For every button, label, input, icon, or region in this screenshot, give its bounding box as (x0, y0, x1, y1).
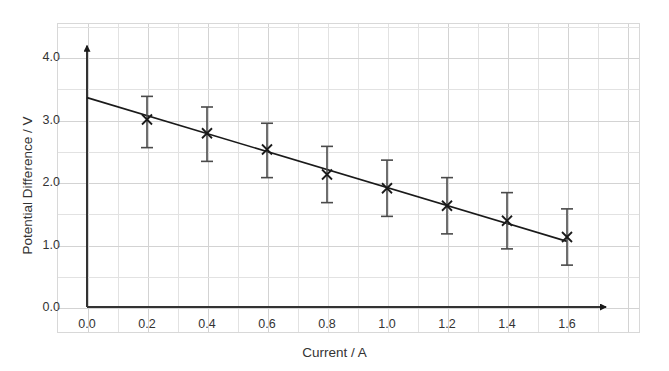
x-tick-label: 0.2 (138, 317, 155, 331)
x-tick-label: 1.0 (378, 317, 395, 331)
x-axis-title: Current / A (0, 345, 669, 360)
x-tick-label: 1.6 (558, 317, 575, 331)
x-tick-label: 0.8 (318, 317, 335, 331)
y-axis-title: Potential Difference / V (20, 96, 35, 276)
x-tick-label: 1.2 (438, 317, 455, 331)
error-bars (141, 96, 573, 265)
plot-canvas (0, 0, 669, 371)
chart-container: 0.00.20.40.60.81.01.21.41.6 0.01.02.03.0… (0, 0, 669, 371)
x-tick-label: 0.4 (198, 317, 215, 331)
x-tick-label: 0.6 (258, 317, 275, 331)
axes (87, 46, 606, 307)
y-tick-label: 0.0 (26, 300, 60, 314)
y-tick-label: 4.0 (26, 50, 60, 64)
x-tick-label: 1.4 (498, 317, 515, 331)
x-tick-label: 0.0 (78, 317, 95, 331)
